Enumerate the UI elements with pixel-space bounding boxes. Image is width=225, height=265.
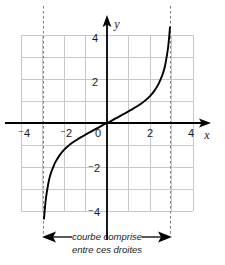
caption-line-2: entre ces droites bbox=[72, 244, 142, 255]
x-tick-label--4: ⁻4 bbox=[18, 127, 30, 139]
y-axis-label: y bbox=[113, 17, 120, 31]
x-axis-label: x bbox=[203, 128, 210, 142]
y-tick-label-2: 2 bbox=[92, 76, 98, 88]
x-tick-label-2: 2 bbox=[147, 127, 153, 139]
x-tick-label-4: 4 bbox=[188, 127, 194, 139]
graph-figure: x y ⁻4 ⁻2 2 4 0 4 2 ⁻2 ⁻4 courbe compris… bbox=[0, 0, 225, 265]
function-graph-svg: x y ⁻4 ⁻2 2 4 0 4 2 ⁻2 ⁻4 courbe compris… bbox=[0, 0, 225, 265]
caption-line-1: courbe comprise bbox=[72, 231, 142, 242]
y-tick-label-4: 4 bbox=[92, 32, 98, 44]
y-tick-label--4: ⁻4 bbox=[88, 206, 100, 218]
y-tick-label--2: ⁻2 bbox=[88, 162, 100, 174]
x-tick-label--2: ⁻2 bbox=[60, 127, 72, 139]
